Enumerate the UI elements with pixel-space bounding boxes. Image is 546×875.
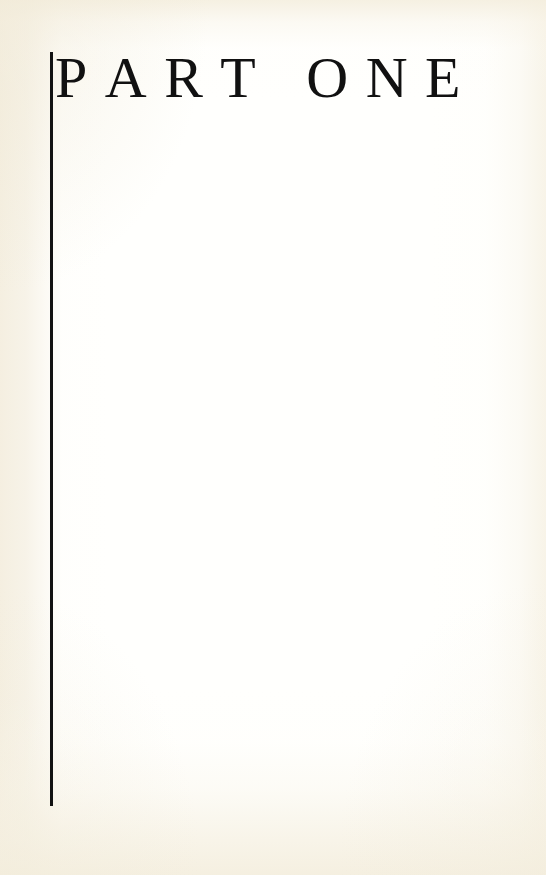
- heading-word-one: ONE: [306, 48, 461, 108]
- heading-letter: P: [55, 48, 88, 108]
- heading-letter: T: [220, 48, 256, 108]
- heading-letter: A: [105, 48, 147, 108]
- part-title-page: PART ONE: [0, 0, 546, 875]
- heading-letter: N: [366, 48, 408, 108]
- heading-letter: E: [425, 48, 461, 108]
- paper-texture-vertical: [0, 0, 546, 875]
- page-title: PART ONE: [55, 48, 525, 108]
- heading-letter: O: [306, 48, 348, 108]
- vertical-rule: [50, 52, 53, 806]
- paper-corner-shading: [0, 0, 546, 875]
- paper-texture-horizontal: [0, 0, 546, 875]
- heading-letter: R: [164, 48, 203, 108]
- heading-word-part: PART: [55, 48, 256, 108]
